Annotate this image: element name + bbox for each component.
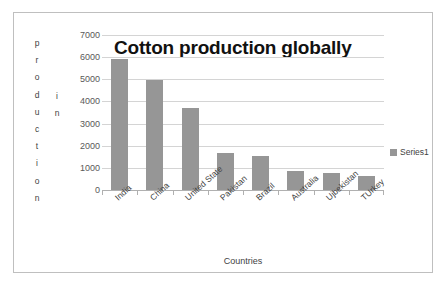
y-axis-title-letter: i: [30, 155, 44, 172]
y-axis-title-letter: o: [30, 69, 44, 86]
y-axis-tick-label: 4000: [80, 96, 100, 106]
y-axis-tick-label: 3000: [80, 119, 100, 129]
y-axis-title-column-2: in: [50, 88, 64, 122]
bar-slot: [278, 35, 313, 190]
x-axis-tick-labels: IndiaChinaUnited StatePakistanBrazilAust…: [102, 195, 384, 247]
chart-container: Cotton production globally production in…: [13, 12, 433, 273]
bar-united-state[interactable]: [182, 108, 199, 190]
legend: Series1: [390, 147, 429, 157]
bar-slot: [173, 35, 208, 190]
y-axis-title-letter: d: [30, 87, 44, 104]
y-axis-tick-label: 1000: [80, 163, 100, 173]
bar-slot: [102, 35, 137, 190]
y-axis-title-letter: u: [30, 104, 44, 121]
y-axis-title-column-1: production: [30, 35, 44, 207]
y-axis-title-letter: r: [30, 52, 44, 69]
bar-china[interactable]: [146, 80, 163, 190]
bar-slot: [243, 35, 278, 190]
x-axis-title: Countries: [102, 256, 384, 266]
y-axis-tick-label: 6000: [80, 52, 100, 62]
plot-area: [102, 35, 384, 190]
y-axis-title-letter: p: [30, 35, 44, 52]
y-axis-title-letter: o: [30, 173, 44, 190]
y-axis-title-letter: c: [30, 121, 44, 138]
y-axis-tick-label: 2000: [80, 141, 100, 151]
legend-label-series1: Series1: [400, 147, 429, 157]
y-axis-title-letter: n: [50, 105, 64, 122]
bar-slot: [349, 35, 384, 190]
legend-swatch-series1: [390, 149, 397, 156]
bar-india[interactable]: [111, 59, 128, 190]
y-axis-title-letter: t: [30, 138, 44, 155]
y-axis-title-letter: n: [30, 190, 44, 207]
bar-slot: [314, 35, 349, 190]
y-axis-tick-label: 0: [95, 185, 100, 195]
y-axis-tick-label: 7000: [80, 30, 100, 40]
y-axis-title-letter: i: [50, 88, 64, 105]
y-axis-tick-label: 5000: [80, 74, 100, 84]
y-axis-tick-labels: 70006000500040003000200010000: [66, 13, 100, 272]
bar-slot: [137, 35, 172, 190]
bar-series: [102, 35, 384, 190]
